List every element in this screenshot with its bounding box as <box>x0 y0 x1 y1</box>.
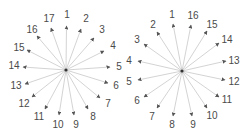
arrow-ray-16 <box>37 36 66 70</box>
ray-label-16: 16 <box>187 10 199 21</box>
ray-label-12: 12 <box>228 76 240 87</box>
ray-label-16: 16 <box>26 24 38 35</box>
ray-label-3: 3 <box>99 24 105 35</box>
ray-label-1: 1 <box>64 9 70 20</box>
ray-label-2: 2 <box>83 13 89 24</box>
ray-label-9: 9 <box>190 119 196 130</box>
ray-label-5: 5 <box>116 61 122 72</box>
ray-label-6: 6 <box>113 80 119 91</box>
arrow-ray-12 <box>32 70 66 97</box>
center-hub-icon <box>180 69 183 72</box>
left-star-diagram: 1234567891011121314151617 <box>8 9 122 130</box>
arrow-ray-7 <box>66 70 100 98</box>
center-hub-icon <box>64 68 67 71</box>
ray-label-17: 17 <box>43 13 55 24</box>
ray-label-4: 4 <box>126 55 132 66</box>
ray-label-13: 13 <box>228 55 240 66</box>
ray-label-15: 15 <box>13 42 25 53</box>
ray-label-6: 6 <box>134 95 140 106</box>
arrow-ray-5 <box>66 67 110 70</box>
ray-label-1: 1 <box>169 9 175 20</box>
ray-label-7: 7 <box>149 111 155 122</box>
ray-label-13: 13 <box>10 80 22 91</box>
diagram-canvas: 1234567891011121314151617 11615141312111… <box>0 0 247 139</box>
ray-label-8: 8 <box>90 111 96 122</box>
ray-label-12: 12 <box>18 98 30 109</box>
ray-label-11: 11 <box>34 111 45 122</box>
ray-label-7: 7 <box>105 98 111 109</box>
ray-label-2: 2 <box>150 19 156 30</box>
ray-label-4: 4 <box>110 40 116 51</box>
ray-label-8: 8 <box>169 119 175 130</box>
ray-label-14: 14 <box>8 60 20 71</box>
arrow-ray-14 <box>23 67 66 70</box>
right-star-diagram: 11615141312111098765432 <box>126 9 240 130</box>
ray-label-9: 9 <box>73 119 79 130</box>
ray-label-11: 11 <box>222 94 233 105</box>
ray-label-14: 14 <box>221 34 233 45</box>
arrow-ray-1 <box>66 26 67 70</box>
arrow-ray-3 <box>66 38 94 70</box>
ray-label-3: 3 <box>134 34 140 45</box>
ray-label-10: 10 <box>206 110 218 121</box>
ray-label-10: 10 <box>52 119 64 130</box>
ray-label-5: 5 <box>126 76 132 87</box>
ray-label-15: 15 <box>206 19 218 30</box>
